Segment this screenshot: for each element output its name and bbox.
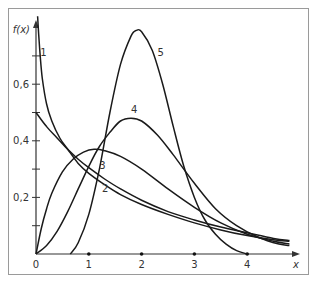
y-axis-label: f(x): [13, 24, 30, 35]
y-tick-label: 0,4: [13, 135, 29, 146]
x-tick: [87, 252, 91, 256]
x-tick-label: 4: [244, 259, 250, 270]
x-tick-label: 3: [191, 259, 197, 270]
curve-5: [70, 30, 247, 254]
x-axis-arrow-icon: [292, 251, 300, 257]
curve-3: [36, 149, 289, 254]
curve-label-3: 3: [99, 160, 105, 171]
x-tick: [193, 252, 197, 256]
x-tick-label: 1: [86, 259, 92, 270]
x-tick: [140, 252, 144, 256]
chart: 01234x0,20,40,6f(x) 12345: [0, 0, 318, 284]
y-tick-label: 0,2: [13, 192, 29, 203]
curve-4: [36, 118, 289, 254]
x-tick-label: 2: [138, 259, 144, 270]
x-tick-label: 0: [33, 259, 39, 270]
y-tick-label: 0,6: [13, 79, 29, 90]
curve-label-5: 5: [157, 47, 163, 58]
curve-2: [36, 113, 289, 241]
curve-label-4: 4: [131, 104, 137, 115]
x-axis-label: x: [292, 259, 299, 270]
curve-label-1: 1: [40, 47, 46, 58]
curve-label-2: 2: [102, 183, 108, 194]
